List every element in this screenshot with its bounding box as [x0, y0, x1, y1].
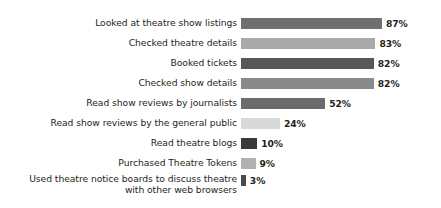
bar-track: 82% [241, 73, 441, 93]
bar-category-label: Used theatre notice boards to discuss th… [0, 173, 241, 195]
bar-value-label: 10% [261, 138, 283, 149]
chart-row: Checked theatre details83% [0, 33, 441, 53]
chart-row: Used theatre notice boards to discuss th… [0, 173, 441, 195]
bar [241, 78, 374, 89]
bar [241, 38, 375, 49]
bar-category-label: Checked show details [0, 78, 241, 88]
bar-track: 87% [241, 13, 441, 33]
bar [241, 98, 325, 109]
bar [241, 18, 382, 29]
bar-category-label: Checked theatre details [0, 38, 241, 48]
bar-value-label: 24% [284, 118, 306, 129]
bar-track: 10% [241, 133, 441, 153]
chart-row: Booked tickets82% [0, 53, 441, 73]
bar-value-label: 3% [250, 175, 265, 186]
bar-track: 82% [241, 53, 441, 73]
chart-row: Read show reviews by the general public2… [0, 113, 441, 133]
bar-value-label: 9% [260, 158, 275, 169]
bar-value-label: 82% [378, 78, 400, 89]
bar-track: 52% [241, 93, 441, 113]
bar-track: 24% [241, 113, 441, 133]
bar-value-label: 82% [378, 58, 400, 69]
bar [241, 175, 246, 186]
bar-category-label: Read theatre blogs [0, 138, 241, 148]
bar-track: 9% [241, 153, 441, 173]
chart-row: Looked at theatre show listings87% [0, 13, 441, 33]
horizontal-bar-chart: Looked at theatre show listings87%Checke… [0, 0, 441, 208]
chart-row: Read theatre blogs10% [0, 133, 441, 153]
bar [241, 158, 256, 169]
bar [241, 138, 257, 149]
bar-category-label: Read show reviews by the general public [0, 118, 241, 128]
chart-row: Read show reviews by journalists52% [0, 93, 441, 113]
bar-category-label: Looked at theatre show listings [0, 18, 241, 28]
bar-value-label: 83% [379, 38, 401, 49]
bar-category-label: Purchased Theatre Tokens [0, 158, 241, 168]
chart-row: Checked show details82% [0, 73, 441, 93]
bar [241, 58, 374, 69]
bar-value-label: 87% [386, 18, 408, 29]
bar-category-label: Booked tickets [0, 58, 241, 68]
chart-row: Purchased Theatre Tokens9% [0, 153, 441, 173]
bar [241, 118, 280, 129]
bar-track: 83% [241, 33, 441, 53]
bar-track: 3% [241, 173, 441, 197]
bar-value-label: 52% [329, 98, 351, 109]
bar-category-label: Read show reviews by journalists [0, 98, 241, 108]
